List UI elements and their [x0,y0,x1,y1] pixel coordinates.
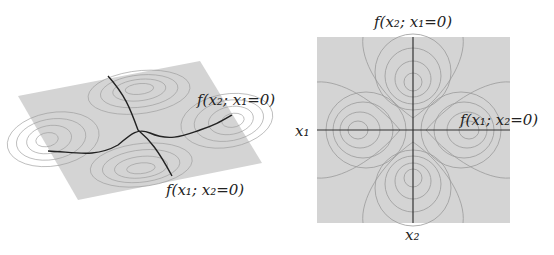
label-f-x2-right: f(x₂; x₁=0) [374,15,452,30]
label-f-x1-left: f(x₁; x₂=0) [166,183,244,198]
label-axis-x2: x₂ [405,228,419,243]
label-f-x1-right: f(x₁; x₂=0) [460,113,538,128]
surface-3d [1,60,278,200]
label-axis-x1: x₁ [295,124,309,139]
label-f-x2-left: f(x₂; x₁=0) [197,93,275,108]
contour-plot [317,34,510,226]
